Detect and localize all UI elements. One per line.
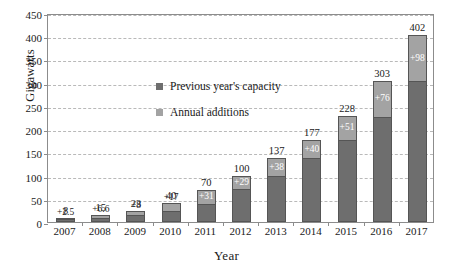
bar-addition-label: +29 <box>234 178 249 188</box>
bar-segment-previous-capacity[interactable] <box>126 215 145 222</box>
bar-addition-label: +51 <box>340 124 355 134</box>
x-axis-tick-labels: 2007200820092010201120122013201420152016… <box>47 226 434 244</box>
bar-segment-previous-capacity[interactable] <box>232 189 251 222</box>
bar-segment-annual-additions[interactable]: 8+2.5 <box>56 218 75 219</box>
bar-group[interactable]: 137+38 <box>267 158 286 222</box>
y-axis-tick-label: 100 <box>6 172 42 183</box>
x-axis-tick-mark <box>328 222 329 226</box>
bar-group[interactable]: 228+51 <box>338 116 357 222</box>
legend-item-annual-additions: Annual additions <box>156 107 281 119</box>
bar-segment-previous-capacity[interactable] <box>267 176 286 222</box>
bar-segment-annual-additions[interactable]: 15+6.6 <box>91 215 110 218</box>
bar-group[interactable]: 303+76 <box>373 81 392 222</box>
x-axis-tick-mark <box>399 222 400 226</box>
plot-area: 050100150200250300350400450 8+2.515+6.62… <box>47 14 434 223</box>
x-axis-tick-label: 2009 <box>124 226 146 237</box>
bar-segment-annual-additions[interactable]: 100+29 <box>232 176 251 189</box>
bar-addition-label: +17 <box>164 193 179 203</box>
bar-addition-label: +76 <box>375 95 390 105</box>
bar-group[interactable]: 100+29 <box>232 176 251 222</box>
bar-segment-previous-capacity[interactable] <box>338 140 357 222</box>
bar-addition-label: +40 <box>304 145 319 155</box>
bar-total-label: 177 <box>304 128 320 139</box>
y-axis-tick-label: 350 <box>6 56 42 67</box>
bar-total-label: 228 <box>339 104 355 115</box>
y-axis-tick-label: 200 <box>6 126 42 137</box>
bar-addition-label: +6.6 <box>92 205 109 215</box>
bar-segment-annual-additions[interactable]: 23+8 <box>126 211 145 215</box>
bar-addition-label: +31 <box>199 192 214 202</box>
bar-addition-label: +38 <box>269 163 284 173</box>
legend-label: Annual additions <box>170 107 249 119</box>
bar-segment-annual-additions[interactable]: 70+31 <box>197 190 216 204</box>
y-axis-tick-mark <box>44 224 48 225</box>
bar-addition-label: +2.5 <box>57 208 74 218</box>
legend-item-previous-capacity: Previous year's capacity <box>156 81 281 93</box>
bar-group[interactable]: 23+8 <box>126 211 145 222</box>
x-axis-tick-mark <box>82 222 83 226</box>
x-axis-tick-mark <box>258 222 259 226</box>
x-axis-tick-label: 2011 <box>195 226 217 237</box>
bar-segment-annual-additions[interactable]: 177+40 <box>302 140 321 159</box>
bar-group[interactable]: 15+6.6 <box>91 215 110 222</box>
bar-addition-label: +8 <box>131 201 141 211</box>
bar-total-label: 303 <box>374 69 390 80</box>
x-axis-tick-mark <box>188 222 189 226</box>
x-axis-tick-label: 2014 <box>300 226 322 237</box>
bar-total-label: 402 <box>410 23 426 34</box>
y-axis-tick-label: 450 <box>6 10 42 21</box>
y-axis-tick-label: 0 <box>6 219 42 230</box>
chart-container: Gigawatts Year 0501001502002503003504004… <box>0 0 453 272</box>
x-axis-tick-label: 2010 <box>159 226 181 237</box>
chart-legend: Previous year's capacity Annual addition… <box>156 81 281 132</box>
legend-swatch-icon <box>156 83 163 90</box>
x-axis-tick-label: 2012 <box>230 226 252 237</box>
bar-segment-previous-capacity[interactable] <box>373 117 392 222</box>
y-axis-tick-label: 150 <box>6 149 42 160</box>
bar-total-label: 70 <box>201 178 212 189</box>
bar-group[interactable]: 177+40 <box>302 140 321 222</box>
x-axis-tick-label: 2013 <box>265 226 287 237</box>
bar-group[interactable]: 40+17 <box>162 203 181 222</box>
x-axis-tick-mark <box>117 222 118 226</box>
x-axis-title: Year <box>0 248 453 264</box>
x-axis-tick-label: 2007 <box>54 226 76 237</box>
y-axis-tick-label: 400 <box>6 33 42 44</box>
legend-swatch-icon <box>156 109 163 116</box>
bar-total-label: 137 <box>269 146 285 157</box>
bar-segment-previous-capacity[interactable] <box>162 211 181 222</box>
bar-segment-annual-additions[interactable]: 137+38 <box>267 158 286 176</box>
y-axis-tick-label: 300 <box>6 79 42 90</box>
x-axis-tick-mark <box>364 222 365 226</box>
x-axis-tick-mark <box>293 222 294 226</box>
x-axis-tick-label: 2016 <box>370 226 392 237</box>
bar-segment-annual-additions[interactable]: 303+76 <box>373 81 392 116</box>
bar-segment-previous-capacity[interactable] <box>197 204 216 222</box>
bar-segment-previous-capacity[interactable] <box>56 219 75 222</box>
bar-group[interactable]: 8+2.5 <box>56 218 75 222</box>
x-axis-tick-label: 2017 <box>405 226 427 237</box>
x-axis-tick-label: 2008 <box>89 226 111 237</box>
bar-segment-previous-capacity[interactable] <box>408 81 427 222</box>
bar-total-label: 100 <box>234 164 250 175</box>
bar-group[interactable]: 402+98 <box>408 35 427 222</box>
bar-group[interactable]: 70+31 <box>197 190 216 223</box>
bar-segment-annual-additions[interactable]: 402+98 <box>408 35 427 81</box>
x-axis-tick-mark <box>153 222 154 226</box>
bar-segment-previous-capacity[interactable] <box>91 218 110 222</box>
bar-segment-annual-additions[interactable]: 228+51 <box>338 116 357 140</box>
y-axis-tick-label: 250 <box>6 102 42 113</box>
bar-addition-label: +98 <box>410 54 425 64</box>
y-axis-tick-label: 50 <box>6 195 42 206</box>
x-axis-tick-mark <box>223 222 224 226</box>
legend-label: Previous year's capacity <box>170 81 281 93</box>
bar-segment-annual-additions[interactable]: 40+17 <box>162 203 181 211</box>
x-axis-tick-label: 2015 <box>335 226 357 237</box>
bar-segment-previous-capacity[interactable] <box>302 158 321 222</box>
